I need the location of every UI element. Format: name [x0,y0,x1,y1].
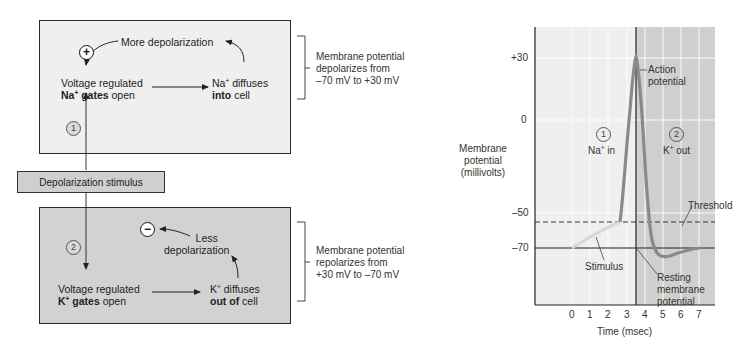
x-tick-0: 0 [569,309,575,320]
x-tick-2: 2 [605,309,611,320]
na-in-label: Na+ in [588,145,615,156]
y-tick-minus70: –70 [512,242,529,253]
y-axis-label-line: (millivolts) [452,167,514,179]
k-out-label: K+ out [663,145,690,156]
x-tick-7: 7 [696,309,702,320]
threshold-label: Threshold [688,200,732,211]
x-tick-6: 6 [678,309,684,320]
y-tick-30: +30 [511,52,528,63]
x-tick-3: 3 [624,309,630,320]
action-potential-chart [0,0,750,349]
x-tick-1: 1 [587,309,593,320]
y-tick-minus50: –50 [512,207,529,218]
region-2-badge: 2 [669,127,684,142]
y-tick-0: 0 [521,114,527,125]
y-axis-label-line: potential [452,155,514,167]
x-tick-4: 4 [642,309,648,320]
action-potential-label: Action potential [648,64,698,88]
y-axis-label-line: Membrane [452,143,514,155]
x-tick-5: 5 [660,309,666,320]
resting-potential-label: Resting membrane potential [657,272,717,308]
y-axis-label: Membrane potential (millivolts) [452,143,514,179]
stimulus-label: Stimulus [585,261,623,272]
x-axis-label: Time (msec) [597,326,652,337]
region-1-badge: 1 [596,127,611,142]
